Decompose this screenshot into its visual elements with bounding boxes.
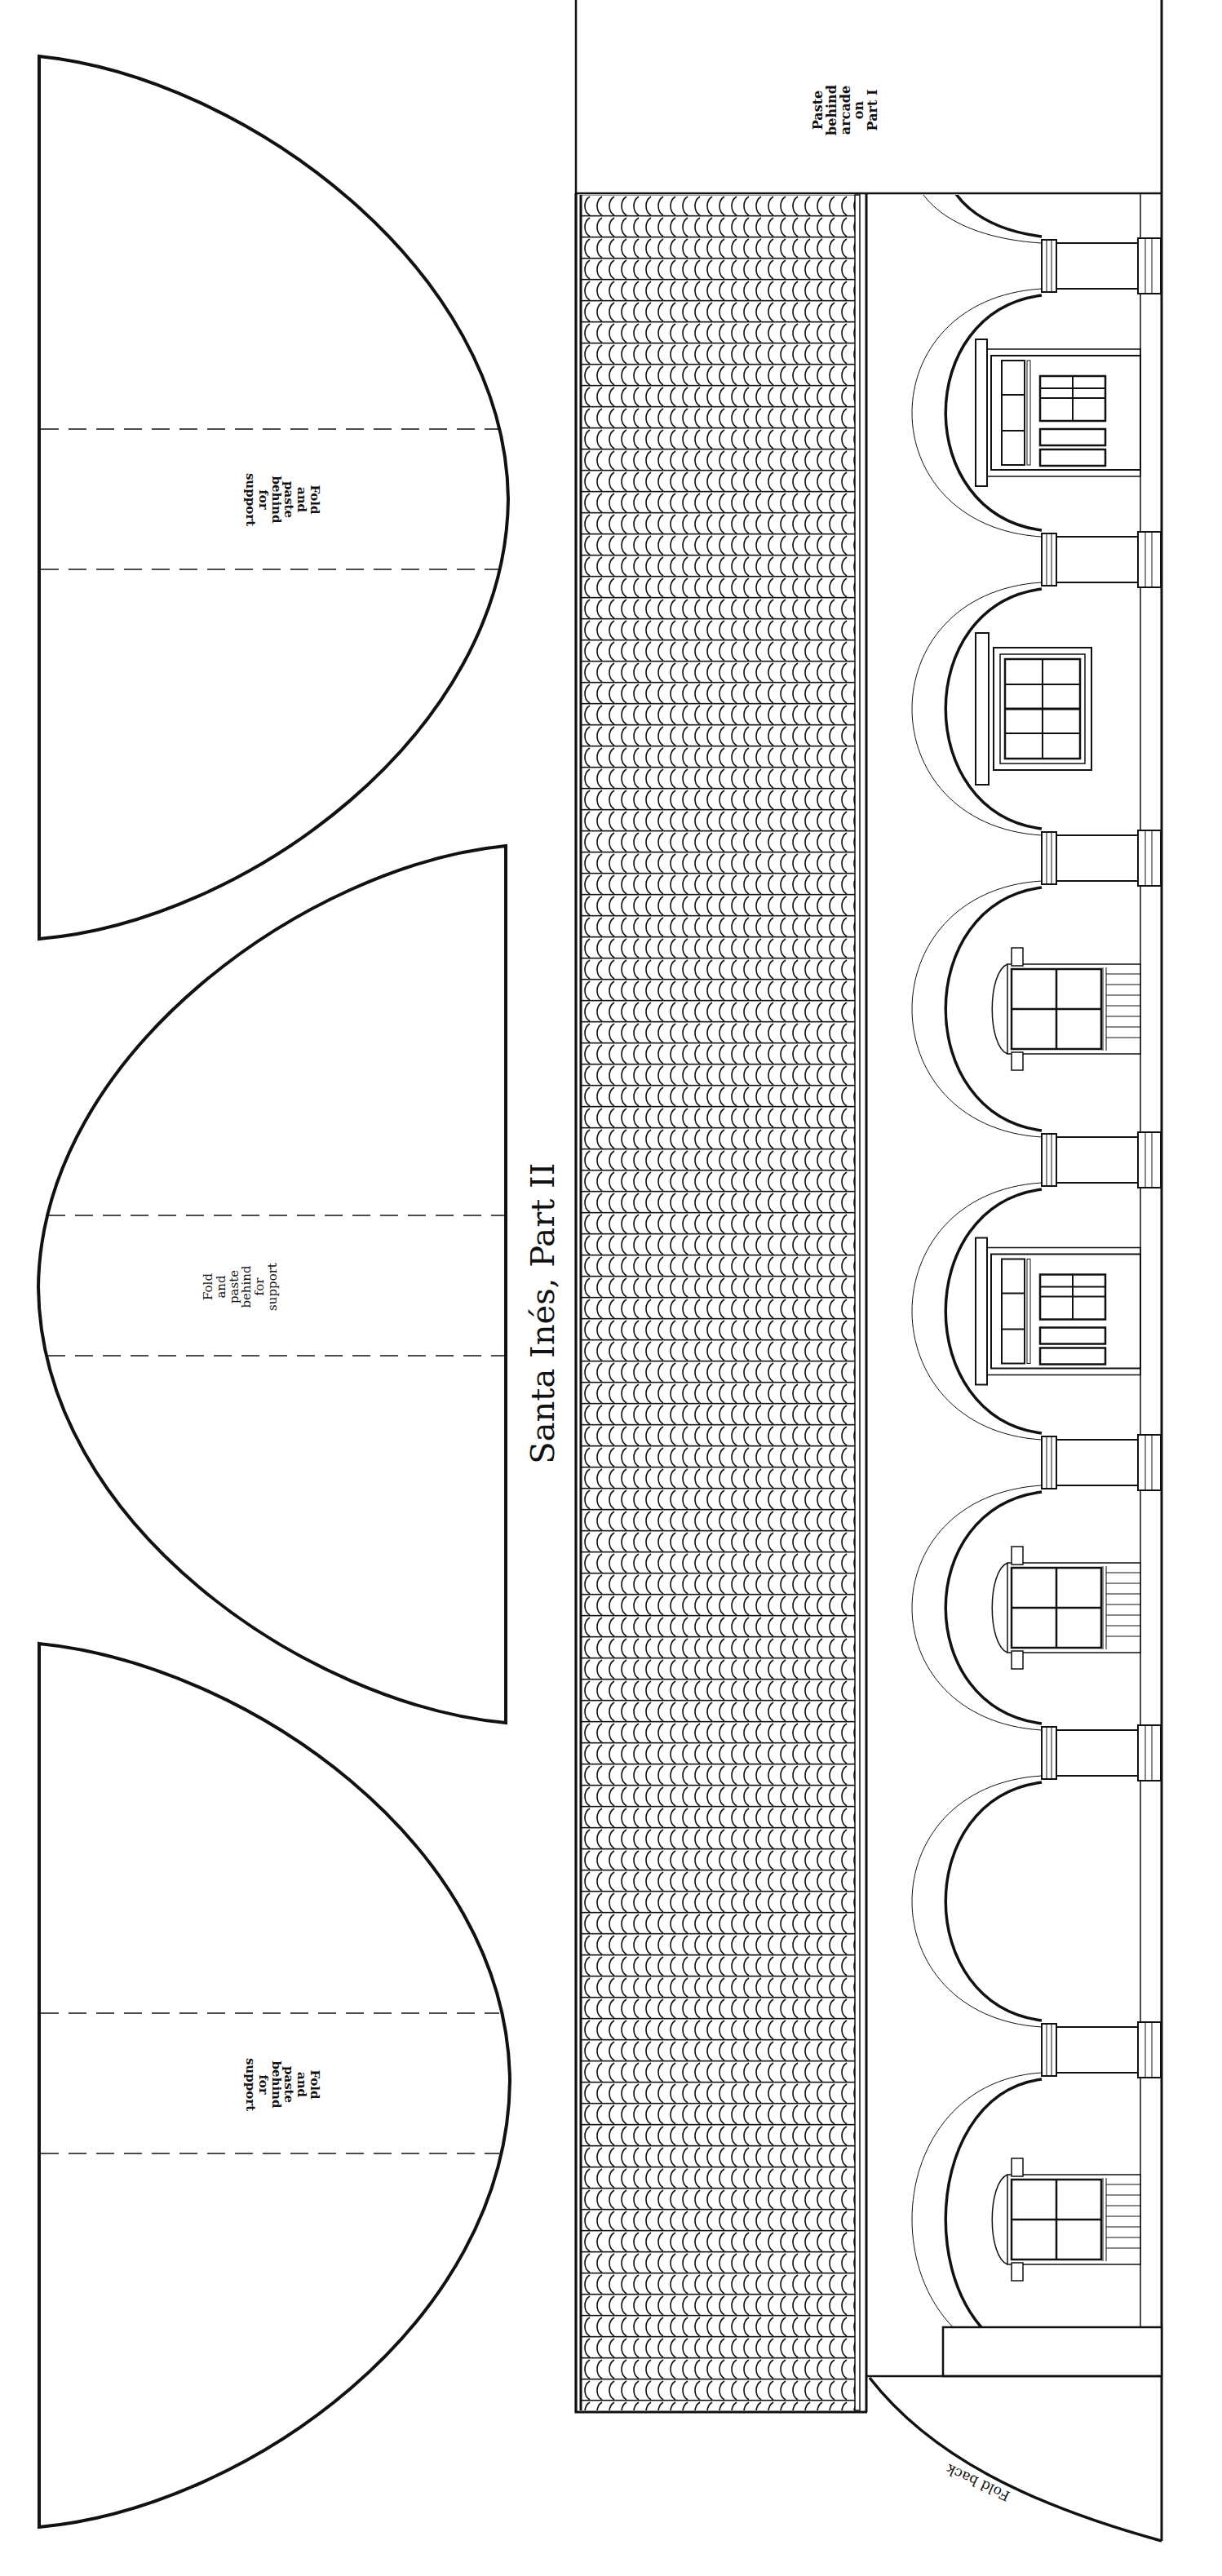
column: [1042, 532, 1161, 587]
column: [1042, 1132, 1161, 1188]
arcade-window-small: [992, 2158, 1140, 2281]
column: [1042, 238, 1161, 294]
arcade-window-small: [992, 948, 1140, 1070]
papercraft-sheet: Fold and paste behind for support Fold a…: [0, 0, 1222, 2576]
arcade-door: [976, 1238, 1140, 1385]
arcade: [912, 81, 1161, 2366]
column: [1042, 830, 1161, 886]
column: [1042, 1725, 1161, 1781]
paste-tab-label: Paste behind arcade on Part I: [812, 53, 918, 167]
support-label-2: Fold and paste behind for support: [202, 1222, 321, 1352]
support-label-3: Fold and paste behind for support: [202, 2020, 321, 2150]
column: [1042, 2022, 1161, 2078]
tile-roof: [576, 193, 867, 2412]
arcade-door: [976, 339, 1140, 486]
page-title: Santa Inés, Part II: [518, 1122, 567, 1505]
arcade-base: [866, 2327, 1162, 2541]
arcade-window-large: [976, 633, 1091, 785]
arcade-window-small: [992, 1547, 1140, 1669]
support-label-1: Fold and paste behind for support: [202, 435, 321, 565]
column: [1042, 1435, 1161, 1490]
santa-ines-part-ii-drawing: [0, 0, 1222, 2576]
